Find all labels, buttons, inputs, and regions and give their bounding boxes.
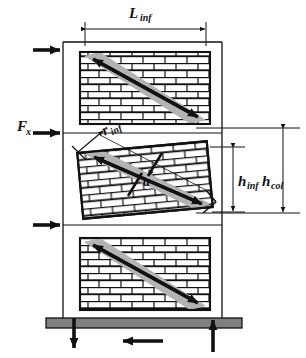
infilled-frame-diagram: L inf h inf h col F x r inf a [0,0,306,358]
label-h-col-sub: col [271,180,283,191]
label-h-col: h [262,173,270,189]
label-h-inf-sub: inf [247,180,260,191]
label-h-inf: h [238,173,246,189]
infill-panel-top [80,52,210,124]
infill-panel-bottom [80,238,210,310]
label-F-x-sub: x [25,126,31,137]
label-a: a [143,174,150,189]
label-L-inf: L [128,5,138,21]
label-L-inf-sub: inf [140,12,153,23]
